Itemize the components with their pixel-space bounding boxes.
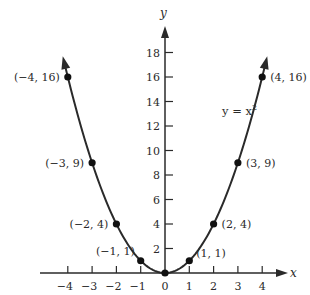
x-axis-arrow-icon (276, 269, 288, 277)
equation-label: y = x2 (221, 103, 257, 118)
point-label: (1, 1) (196, 247, 226, 260)
point-label: (4, 16) (270, 71, 307, 84)
point-label: (−1, 1) (96, 245, 135, 258)
data-point (259, 73, 266, 80)
x-tick-label: −4 (57, 280, 73, 293)
x-tick-label: 4 (259, 280, 266, 293)
point-label: (−4, 16) (14, 71, 60, 84)
parabola-chart: −4−3−2−10123424681012141618 (−4, 16)(−3,… (0, 0, 310, 295)
y-tick-label: 8 (153, 169, 160, 182)
data-point (161, 269, 168, 276)
y-tick-label: 16 (146, 71, 160, 84)
point-label: (−3, 9) (45, 157, 84, 170)
data-point (64, 73, 71, 80)
data-point (210, 220, 217, 227)
y-tick-label: 18 (146, 47, 160, 60)
point-label: (−2, 4) (70, 218, 109, 231)
y-tick-label: 10 (146, 145, 160, 158)
y-tick-label: 6 (153, 194, 160, 207)
point-label: (3, 9) (246, 157, 276, 170)
y-tick-label: 4 (153, 218, 160, 231)
equation-base: y = x (221, 104, 252, 118)
x-tick-label: −1 (130, 280, 146, 293)
data-point (89, 159, 96, 166)
ticks: −4−3−2−10123424681012141618 (57, 47, 266, 294)
x-tick-label: −3 (81, 280, 97, 293)
curve-right-arrow-icon (260, 56, 269, 70)
data-point (137, 257, 144, 264)
equation-exponent: 2 (252, 103, 257, 112)
x-tick-label: 0 (162, 280, 169, 293)
x-tick-label: −2 (105, 280, 121, 293)
point-label: (2, 4) (222, 218, 252, 231)
x-tick-label: 3 (234, 280, 241, 293)
x-axis-label: x (290, 266, 297, 280)
data-point (113, 220, 120, 227)
curve-left-arrow-icon (61, 56, 70, 70)
y-tick-label: 2 (153, 243, 160, 256)
y-axis-arrow-icon (161, 26, 169, 38)
data-point (234, 159, 241, 166)
data-point (186, 257, 193, 264)
y-tick-label: 14 (146, 96, 160, 109)
x-tick-label: 2 (210, 280, 217, 293)
y-tick-label: 12 (146, 120, 160, 133)
x-tick-label: 1 (186, 280, 193, 293)
point-labels: (−4, 16)(−3, 9)(−2, 4)(−1, 1)(1, 1)(2, 4… (14, 71, 307, 260)
y-axis-label: y (159, 6, 167, 20)
axes (40, 26, 288, 277)
